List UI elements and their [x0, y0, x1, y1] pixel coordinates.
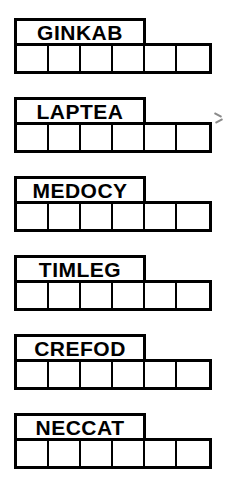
answer-cells-row: [14, 201, 212, 232]
answer-cell[interactable]: [145, 46, 177, 71]
scrambled-word-text: GINKAB: [17, 22, 143, 43]
scan-artifact-mark: [214, 112, 222, 118]
answer-cell[interactable]: [81, 362, 113, 387]
answer-cell[interactable]: [17, 441, 49, 466]
answer-cell[interactable]: [81, 204, 113, 229]
answer-cells-row: [14, 280, 212, 311]
answer-cells-row: [14, 438, 212, 469]
answer-cell[interactable]: [177, 204, 209, 229]
answer-cell[interactable]: [17, 204, 49, 229]
answer-cell[interactable]: [49, 204, 81, 229]
answer-cell[interactable]: [81, 46, 113, 71]
scrambled-word-box: NECCAT: [14, 413, 146, 441]
scrambled-word-box: GINKAB: [14, 18, 146, 46]
answer-cell[interactable]: [145, 204, 177, 229]
answer-cell[interactable]: [113, 46, 145, 71]
answer-cell[interactable]: [17, 283, 49, 308]
scrambled-word-text: TIMLEG: [17, 259, 143, 280]
answer-cell[interactable]: [177, 46, 209, 71]
word-row: CREFOD: [14, 334, 212, 390]
answer-cell[interactable]: [17, 46, 49, 71]
scrambled-word-box: MEDOCY: [14, 176, 146, 204]
word-puzzle-worksheet: GINKABLAPTEAMEDOCYTIMLEGCREFODNECCAT: [0, 0, 230, 487]
answer-cell[interactable]: [49, 362, 81, 387]
answer-cell[interactable]: [49, 283, 81, 308]
answer-cells-row: [14, 43, 212, 74]
answer-cell[interactable]: [81, 441, 113, 466]
word-row: NECCAT: [14, 413, 212, 469]
answer-cell[interactable]: [177, 125, 209, 150]
answer-cell[interactable]: [17, 125, 49, 150]
answer-cell[interactable]: [145, 441, 177, 466]
scrambled-word-text: MEDOCY: [17, 180, 143, 201]
word-row: LAPTEA: [14, 97, 212, 153]
answer-cell[interactable]: [145, 125, 177, 150]
answer-cell[interactable]: [81, 283, 113, 308]
answer-cell[interactable]: [113, 204, 145, 229]
answer-cells-row: [14, 359, 212, 390]
answer-cells-row: [14, 122, 212, 153]
scrambled-word-text: LAPTEA: [17, 101, 143, 122]
answer-cell[interactable]: [81, 125, 113, 150]
scrambled-word-text: CREFOD: [17, 338, 143, 359]
answer-cell[interactable]: [113, 125, 145, 150]
answer-cell[interactable]: [177, 283, 209, 308]
scrambled-word-box: TIMLEG: [14, 255, 146, 283]
answer-cell[interactable]: [49, 441, 81, 466]
answer-cell[interactable]: [113, 441, 145, 466]
scrambled-word-text: NECCAT: [17, 417, 143, 438]
answer-cell[interactable]: [49, 125, 81, 150]
answer-cell[interactable]: [113, 283, 145, 308]
word-row: MEDOCY: [14, 176, 212, 232]
answer-cell[interactable]: [17, 362, 49, 387]
scan-artifact-mark: [215, 118, 223, 124]
scrambled-word-box: LAPTEA: [14, 97, 146, 125]
answer-cell[interactable]: [145, 283, 177, 308]
answer-cell[interactable]: [113, 362, 145, 387]
answer-cell[interactable]: [49, 46, 81, 71]
answer-cell[interactable]: [145, 362, 177, 387]
scrambled-word-box: CREFOD: [14, 334, 146, 362]
word-row: GINKAB: [14, 18, 212, 74]
word-row: TIMLEG: [14, 255, 212, 311]
answer-cell[interactable]: [177, 441, 209, 466]
answer-cell[interactable]: [177, 362, 209, 387]
